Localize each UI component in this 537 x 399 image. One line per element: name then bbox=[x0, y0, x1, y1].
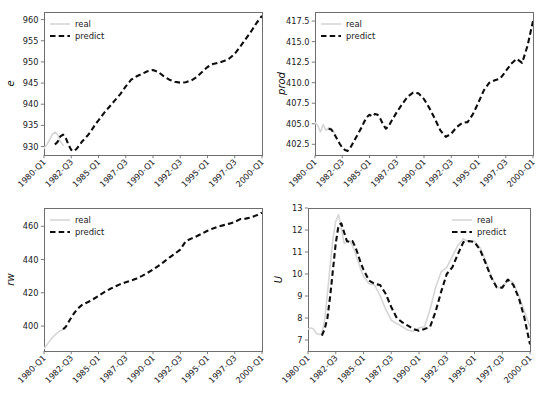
y-tick-label: 415.0 bbox=[286, 37, 309, 47]
x-tick-label: 1980-Q1 bbox=[16, 157, 48, 189]
x-tick-label: 1990-Q1 bbox=[396, 157, 428, 189]
y-tick-label: 12 bbox=[292, 225, 302, 235]
y-tick-label: 440 bbox=[23, 255, 39, 265]
y-tick-label: 13 bbox=[292, 203, 302, 213]
x-tick-label: 1995-Q1 bbox=[446, 353, 478, 385]
x-tick-label: 1990-Q1 bbox=[125, 157, 157, 189]
legend-label-predict: predict bbox=[346, 31, 376, 41]
y-axis-label: rw bbox=[5, 273, 16, 286]
x-axis-ticks: 1980-Q11982-Q31985-Q11987-Q31990-Q11992-… bbox=[287, 155, 537, 189]
y-tick-label: 417.5 bbox=[286, 16, 309, 26]
y-tick-label: 935 bbox=[23, 120, 39, 130]
y-tick-label: 11 bbox=[292, 247, 302, 257]
legend[interactable]: realpredict bbox=[50, 19, 105, 41]
x-tick-label: 2000-Q1 bbox=[505, 157, 537, 189]
x-tick-label: 1985-Q1 bbox=[70, 157, 102, 189]
y-tick-label: 930 bbox=[23, 142, 39, 152]
series-line-real bbox=[44, 132, 63, 148]
subplot-prod: 402.5405.0407.5410.0412.5415.0417.51980-… bbox=[268, 0, 537, 200]
x-tick-label: 1992-Q3 bbox=[423, 157, 455, 189]
y-tick-label: 955 bbox=[23, 36, 39, 46]
x-tick-label: 2000-Q1 bbox=[234, 157, 266, 189]
matplotlib-figure: 9309359409459509559601980-Q11982-Q31985-… bbox=[0, 0, 537, 399]
x-tick-label: 1995-Q1 bbox=[179, 353, 211, 385]
x-tick-label: 1985-Q1 bbox=[70, 353, 102, 385]
x-tick-label: 2000-Q1 bbox=[234, 353, 266, 385]
y-tick-label: 460 bbox=[23, 221, 39, 231]
x-tick-label: 1987-Q3 bbox=[97, 353, 129, 385]
x-axis-ticks: 1980-Q11982-Q31985-Q11987-Q31990-Q11992-… bbox=[16, 351, 266, 385]
y-axis-ticks: 78910111213 bbox=[292, 203, 308, 345]
x-tick-label: 1997-Q3 bbox=[477, 157, 509, 189]
y-tick-label: 10 bbox=[292, 269, 302, 279]
x-axis-ticks: 1980-Q11982-Q31985-Q11987-Q31990-Q11992-… bbox=[16, 155, 266, 189]
y-tick-label: 960 bbox=[23, 15, 39, 25]
x-tick-label: 1985-Q1 bbox=[335, 353, 367, 385]
legend[interactable]: realpredict bbox=[321, 19, 376, 41]
y-axis-ticks: 930935940945950955960 bbox=[23, 15, 44, 152]
x-tick-label: 1995-Q1 bbox=[450, 157, 482, 189]
x-tick-label: 1987-Q3 bbox=[97, 157, 129, 189]
y-axis-label: U bbox=[273, 275, 284, 283]
legend-label-real: real bbox=[477, 215, 493, 225]
x-tick-label: 1997-Q3 bbox=[206, 157, 238, 189]
y-tick-label: 8 bbox=[297, 313, 302, 323]
y-axis-ticks: 400420440460 bbox=[23, 221, 44, 331]
y-tick-label: 945 bbox=[23, 78, 39, 88]
x-tick-label: 2000-Q1 bbox=[502, 353, 534, 385]
y-tick-label: 407.5 bbox=[286, 98, 309, 108]
y-tick-label: 400 bbox=[23, 321, 39, 331]
series-line-real bbox=[315, 123, 334, 133]
x-tick-label: 1997-Q3 bbox=[474, 353, 506, 385]
x-tick-label: 1995-Q1 bbox=[179, 157, 211, 189]
x-tick-label: 1992-Q3 bbox=[152, 353, 184, 385]
x-tick-label: 1987-Q3 bbox=[363, 353, 395, 385]
y-tick-label: 420 bbox=[23, 288, 39, 298]
subplot-rw: 4004204404601980-Q11982-Q31985-Q11987-Q3… bbox=[0, 200, 268, 399]
x-tick-label: 1980-Q1 bbox=[16, 353, 48, 385]
y-axis-label: e bbox=[5, 80, 16, 86]
legend-label-real: real bbox=[75, 215, 91, 225]
x-tick-label: 1980-Q1 bbox=[280, 353, 312, 385]
subplot-e: 9309359409459509559601980-Q11982-Q31985-… bbox=[0, 0, 268, 200]
x-tick-label: 1990-Q1 bbox=[125, 353, 157, 385]
legend-label-predict: predict bbox=[477, 227, 507, 237]
y-tick-label: 402.5 bbox=[286, 139, 309, 149]
legend-label-real: real bbox=[75, 19, 91, 29]
x-tick-label: 1982-Q3 bbox=[43, 157, 75, 189]
y-tick-label: 7 bbox=[297, 335, 302, 345]
y-tick-label: 940 bbox=[23, 99, 39, 109]
series-line-real bbox=[44, 328, 66, 348]
y-tick-label: 410.0 bbox=[286, 78, 309, 88]
x-axis-ticks: 1980-Q11982-Q31985-Q11987-Q31990-Q11992-… bbox=[280, 351, 534, 385]
y-tick-label: 405.0 bbox=[286, 119, 309, 129]
y-tick-label: 9 bbox=[297, 291, 302, 301]
x-tick-label: 1990-Q1 bbox=[391, 353, 423, 385]
legend-label-predict: predict bbox=[75, 31, 105, 41]
legend[interactable]: realpredict bbox=[50, 215, 105, 237]
x-tick-label: 1992-Q3 bbox=[418, 353, 450, 385]
y-axis-label: prod bbox=[276, 71, 287, 96]
x-tick-label: 1987-Q3 bbox=[368, 157, 400, 189]
x-tick-label: 1997-Q3 bbox=[206, 353, 238, 385]
legend-label-real: real bbox=[346, 19, 362, 29]
legend[interactable]: realpredict bbox=[452, 215, 507, 237]
series-line-predict bbox=[322, 223, 530, 344]
x-tick-label: 1982-Q3 bbox=[307, 353, 339, 385]
subplot-u: 789101112131980-Q11982-Q31985-Q11987-Q31… bbox=[268, 200, 537, 399]
x-tick-label: 1980-Q1 bbox=[287, 157, 319, 189]
legend-label-predict: predict bbox=[75, 227, 105, 237]
x-tick-label: 1982-Q3 bbox=[43, 353, 75, 385]
y-axis-ticks: 402.5405.0407.5410.0412.5415.0417.5 bbox=[286, 16, 315, 149]
y-tick-label: 412.5 bbox=[286, 57, 309, 67]
x-tick-label: 1985-Q1 bbox=[341, 157, 373, 189]
y-tick-label: 950 bbox=[23, 57, 39, 67]
x-tick-label: 1982-Q3 bbox=[314, 157, 346, 189]
x-tick-label: 1992-Q3 bbox=[152, 157, 184, 189]
